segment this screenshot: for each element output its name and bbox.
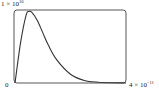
y-axis-max-label: 1 × 1010 [1, 0, 23, 8]
x-axis-max-label: 4 × 10−11 [129, 81, 154, 89]
plot-frame [14, 10, 126, 83]
x-axis-origin-label: 0 [5, 82, 9, 89]
data-curve [15, 11, 126, 83]
chart-plot [0, 0, 159, 91]
